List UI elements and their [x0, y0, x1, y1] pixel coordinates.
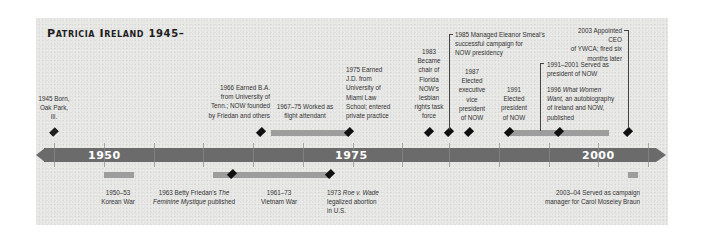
tick-1990 [499, 143, 500, 167]
tick-1960 [203, 143, 204, 167]
event-roe: 1973 Roe v. Wade legalized abortion in U… [327, 188, 389, 216]
title-years: 1945– [148, 28, 184, 39]
event-braun: 2003–04 Served as campaign manager for C… [534, 188, 640, 206]
event-book: 1996 What Women Want, an autobiography o… [547, 85, 626, 122]
served-connector [540, 63, 541, 131]
event-korea: 1950–53 Korean War [99, 188, 138, 206]
axis-label-1975: 1975 [335, 149, 368, 162]
ywca-connector-tick [624, 30, 628, 31]
event-florida: 1983 Became chair of Florida NOW's lesbi… [409, 47, 449, 121]
korean-war-span-bar [104, 172, 134, 178]
event-smeal: 1985 Managed Eleanor Smeal's successful … [455, 30, 552, 58]
served-connector-tick [540, 63, 544, 64]
event-born: 1945 Born, Oak Park, Ill. [35, 94, 74, 122]
title-name: Patricia Ireland [47, 27, 144, 40]
event-ywca: 2003 Appointed CEO of YWCA; fired six mo… [564, 26, 622, 63]
flight-attendant-span-bar [271, 130, 350, 136]
tick-1970 [303, 143, 304, 167]
timeline-title: Patricia Ireland 1945– [47, 27, 184, 40]
braun-campaign-span-bar [628, 172, 638, 178]
event-ba: 1966 Earned B.A. from University of Tenn… [208, 83, 270, 120]
axis-label-1950: 1950 [88, 149, 121, 162]
ywca-connector [628, 30, 629, 128]
event-friedan: 1963 Betty Friedan's The Feminine Mystiq… [150, 188, 238, 206]
event-president: 1991 Elected president of NOW [496, 85, 531, 122]
tick-1985 [449, 143, 450, 167]
tick-1965 [253, 143, 254, 167]
tick-1980 [402, 143, 403, 167]
tick-2005 [648, 143, 649, 167]
tick-1995 [549, 143, 550, 167]
event-vietnam: 1961–73 Vietnam War [257, 188, 301, 206]
event-flight: 1967–75 Worked as flight attendant [274, 102, 336, 120]
smeal-connector-tick [449, 34, 453, 35]
event-evp: 1987 Elected executive vice president of… [454, 67, 489, 122]
tick-1955 [154, 143, 155, 167]
axis-right-arrow [656, 148, 666, 162]
axis-label-2000: 2000 [582, 149, 615, 162]
event-jd: 1975 Earned J.D. from University of Miam… [346, 65, 408, 120]
tick-1945 [54, 143, 55, 167]
